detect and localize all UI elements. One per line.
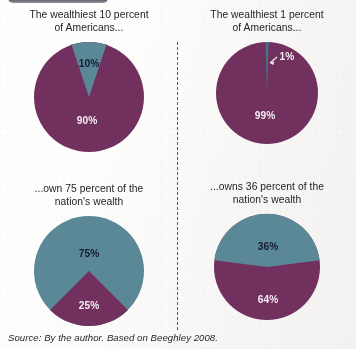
pie-label-top-right-teal: 1% bbox=[280, 51, 295, 62]
chart-title-bottom-right: ...owns 36 percent of the nation's wealt… bbox=[178, 180, 356, 206]
chart-title-top-left-line1: The wealthiest 10 percent bbox=[29, 9, 148, 20]
pie-label-top-left-purple: 90% bbox=[77, 115, 98, 126]
pie-chart-bottom-left: 75% 25% bbox=[33, 215, 145, 327]
pie-chart-top-left: 10% 90% bbox=[33, 41, 145, 153]
chart-title-bottom-left-line2: nation's wealth bbox=[10, 195, 168, 208]
chart-title-top-right-line2: of Americans... bbox=[188, 21, 346, 34]
figure-page: The wealthiest 10 percent of Americans..… bbox=[0, 0, 356, 349]
chart-title-bottom-right-line1: ...owns 36 percent of the bbox=[210, 181, 324, 192]
pie-label-bottom-right-teal: 36% bbox=[258, 241, 279, 252]
pie-label-top-left-teal: 10% bbox=[79, 58, 100, 69]
chart-title-bottom-right-line2: nation's wealth bbox=[188, 193, 346, 206]
chart-title-bottom-left-line1: ...own 75 percent of the bbox=[35, 183, 144, 194]
chart-title-top-left: The wealthiest 10 percent of Americans..… bbox=[0, 8, 178, 34]
pie-label-bottom-left-teal: 75% bbox=[79, 248, 100, 259]
chart-panel-top-right: The wealthiest 1 percent of Americans...… bbox=[178, 8, 356, 145]
pie-svg-bottom-right bbox=[213, 213, 321, 321]
chart-title-bottom-left: ...own 75 percent of the nation's wealth bbox=[0, 182, 178, 208]
pie-chart-bottom-right: 36% 64% bbox=[213, 213, 321, 321]
pie-label-bottom-left-purple: 25% bbox=[79, 300, 100, 311]
cropped-header-bar-fragment bbox=[8, 0, 108, 3]
chart-title-top-left-line2: of Americans... bbox=[10, 21, 168, 34]
pie-label-top-right-purple: 99% bbox=[255, 110, 276, 121]
chart-title-top-right: The wealthiest 1 percent of Americans... bbox=[178, 8, 356, 34]
chart-panel-bottom-right: ...owns 36 percent of the nation's wealt… bbox=[178, 180, 356, 321]
chart-title-top-right-line1: The wealthiest 1 percent bbox=[210, 9, 323, 20]
source-note: Source: By the author. Based on Beeghley… bbox=[8, 332, 218, 343]
pie-label-bottom-right-purple: 64% bbox=[258, 294, 279, 305]
chart-panel-bottom-left: ...own 75 percent of the nation's wealth… bbox=[0, 182, 178, 327]
pie-chart-top-right: 1% 99% bbox=[215, 41, 319, 145]
chart-panel-top-left: The wealthiest 10 percent of Americans..… bbox=[0, 8, 178, 153]
pie-svg-top-right bbox=[215, 41, 319, 145]
